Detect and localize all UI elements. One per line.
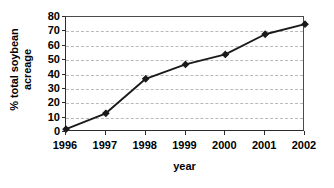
data-series-soybean-acreage: [66, 17, 305, 132]
x-axis-tick-label: 2000: [203, 139, 245, 152]
data-point-marker: [302, 21, 308, 27]
x-axis-tick-label: 2001: [243, 139, 285, 152]
data-point-marker: [222, 51, 228, 57]
x-axis-tick-label: 2002: [283, 139, 325, 152]
x-axis-tick-label: 1999: [164, 139, 206, 152]
chart-figure: % total soybean acreage 0102030405060708…: [0, 0, 334, 188]
y-axis-title-line2: acreage: [20, 28, 33, 110]
plot-area: [65, 16, 304, 131]
data-point-marker: [262, 31, 268, 37]
x-axis-tick-mark: [65, 131, 66, 135]
x-axis-title: year: [65, 160, 304, 172]
x-axis-tick-mark: [304, 131, 305, 135]
x-axis-tick-label: 1996: [44, 139, 86, 152]
x-axis-tick-mark: [185, 131, 186, 135]
x-axis-tick-mark: [145, 131, 146, 135]
x-axis-tick-mark: [105, 131, 106, 135]
y-axis-title-line1: % total soybean: [8, 28, 20, 110]
y-axis-tick-label: 10: [36, 111, 60, 122]
x-axis-tick-label: 1997: [84, 139, 126, 152]
data-point-marker: [182, 61, 188, 67]
x-axis-tick-mark: [224, 131, 225, 135]
y-axis-tick-label: 40: [36, 68, 60, 79]
y-axis-tick-labels: 01020304050607080: [36, 9, 60, 137]
y-axis-tick-label: 70: [36, 25, 60, 36]
y-axis-tick-label: 60: [36, 39, 60, 50]
y-axis-tick-label: 20: [36, 97, 60, 108]
y-axis-tick-label: 0: [36, 126, 60, 137]
x-axis-tick-mark: [264, 131, 265, 135]
y-axis-tick-label: 30: [36, 82, 60, 93]
x-axis-tick-label: 1998: [124, 139, 166, 152]
y-axis-tick-label: 50: [36, 54, 60, 65]
x-axis-tick-marks: [65, 131, 304, 137]
y-axis-tick-label: 80: [36, 11, 60, 22]
y-axis-title: % total soybean acreage: [8, 8, 32, 130]
series-line: [66, 24, 305, 129]
x-axis-tick-labels: 1996199719981999200020012002: [65, 139, 304, 155]
